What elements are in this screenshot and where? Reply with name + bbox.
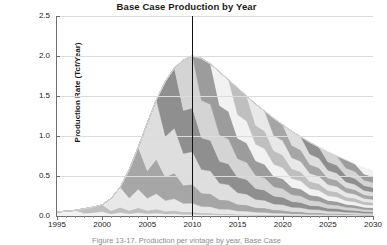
x-tick-minor	[120, 216, 121, 218]
x-tick-label: 2020	[263, 220, 303, 229]
gridline	[57, 56, 373, 57]
x-tick-label: 2010	[172, 220, 212, 229]
x-tick-minor	[174, 216, 175, 218]
x-tick-minor	[138, 216, 139, 218]
gridline	[57, 136, 373, 137]
plot-clip	[57, 16, 373, 216]
x-tick-minor	[310, 216, 311, 218]
plot-area: Production Rate (Tcf/Year)	[57, 16, 373, 216]
y-tick	[56, 56, 60, 57]
x-tick-minor	[355, 216, 356, 218]
y-tick	[56, 16, 60, 17]
x-tick-minor	[84, 216, 85, 218]
x-tick-minor	[129, 216, 130, 218]
x-tick-minor	[66, 216, 67, 218]
gridline	[57, 176, 373, 177]
marker-line-2010	[192, 16, 193, 216]
x-tick-minor	[274, 216, 275, 218]
stacked-area-series	[57, 16, 373, 216]
x-tick-label: 2025	[308, 220, 348, 229]
x-tick-minor	[292, 216, 293, 218]
x-tick-label: 2015	[218, 220, 258, 229]
x-tick-minor	[220, 216, 221, 218]
x-tick-minor	[201, 216, 202, 218]
y-tick-label: 2.0	[0, 52, 50, 60]
x-tick-minor	[75, 216, 76, 218]
x-tick-minor	[301, 216, 302, 218]
x-tick-minor	[156, 216, 157, 218]
x-tick-minor	[210, 216, 211, 218]
x-tick-label: 1995	[37, 220, 77, 229]
x-tick-minor	[319, 216, 320, 218]
gridline	[57, 16, 373, 17]
x-tick-label: 2030	[353, 220, 387, 229]
x-tick-minor	[364, 216, 365, 218]
x-tick-minor	[93, 216, 94, 218]
y-axis-line	[56, 16, 57, 217]
x-axis-line	[56, 216, 373, 217]
x-tick-minor	[247, 216, 248, 218]
y-tick-label: 1.0	[0, 132, 50, 140]
y-tick-label: 1.5	[0, 92, 50, 100]
y-tick-label: 2.5	[0, 12, 50, 20]
x-tick-minor	[183, 216, 184, 218]
y-tick	[56, 96, 60, 97]
y-tick	[56, 176, 60, 177]
chart-title: Base Case Production by Year	[0, 0, 373, 13]
x-tick-minor	[256, 216, 257, 218]
x-tick-label: 2005	[127, 220, 167, 229]
y-tick-label: 0.5	[0, 172, 50, 180]
x-tick-minor	[337, 216, 338, 218]
x-tick-minor	[265, 216, 266, 218]
x-tick-minor	[165, 216, 166, 218]
figure-caption: Figure 13-17. Production per vintage by …	[0, 236, 373, 245]
x-tick-minor	[111, 216, 112, 218]
x-tick-label: 2000	[82, 220, 122, 229]
x-tick-minor	[229, 216, 230, 218]
x-tick-minor	[346, 216, 347, 218]
y-tick	[56, 136, 60, 137]
gridline	[57, 96, 373, 97]
y-tick-label: 0.0	[0, 212, 50, 220]
